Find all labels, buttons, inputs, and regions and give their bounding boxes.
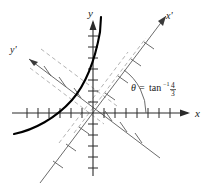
y-prime-axis-label: y' [9,44,17,55]
equals-sign: = [139,82,145,93]
figure-canvas: y x x' y' θ = tan −1 4 3 [0,0,208,183]
fraction-denominator: 3 [171,89,175,98]
theta-symbol: θ [131,82,136,93]
x-prime-axis-label: x' [165,10,173,21]
tan-text: tan [149,82,161,93]
y-axis-label: y [87,7,93,19]
rotated-axes-conic-figure: y x x' y' θ = tan −1 4 3 [0,0,208,183]
inverse-exponent: −1 [163,81,169,87]
x-axis-label: x [194,107,200,119]
figure-background [0,0,208,183]
